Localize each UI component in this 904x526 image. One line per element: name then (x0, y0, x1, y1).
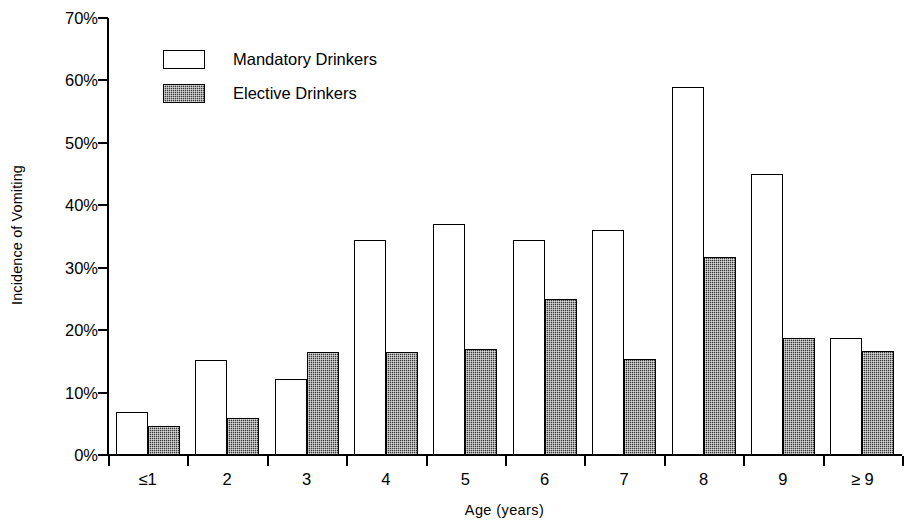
bar-elective (704, 257, 736, 455)
x-axis-tick-mark (823, 456, 825, 466)
x-axis-tick-label: ≥ 9 (822, 470, 902, 489)
x-axis-tick-mark (267, 456, 269, 466)
x-axis-tick-label: 2 (187, 470, 267, 489)
y-axis-tick-mark (98, 204, 108, 206)
x-axis-tick-label: 3 (267, 470, 347, 489)
x-axis-tick-mark (108, 456, 110, 466)
legend-label-elective: Elective Drinkers (233, 84, 357, 103)
y-axis-tick-mark (98, 267, 108, 269)
legend-swatch-mandatory-icon (163, 50, 205, 69)
x-axis-tick-label: 7 (584, 470, 664, 489)
bar-mandatory (751, 174, 783, 455)
y-axis-tick-mark (98, 79, 108, 81)
x-axis-tick-mark (664, 456, 666, 466)
bar-elective (465, 349, 497, 455)
y-axis-tick-mark (98, 17, 108, 19)
bar-elective (545, 299, 577, 455)
x-axis-tick-label: 4 (346, 470, 426, 489)
bar-elective (148, 426, 180, 455)
bar-mandatory (830, 338, 862, 455)
y-axis-tick-mark (98, 392, 108, 394)
x-axis-tick-label: 9 (743, 470, 823, 489)
x-axis-tick-label: ≤1 (108, 470, 188, 489)
legend-label-mandatory: Mandatory Drinkers (233, 50, 377, 69)
legend-swatch-elective-icon (163, 84, 205, 103)
bar-mandatory (116, 412, 148, 455)
y-axis-tick-mark (98, 142, 108, 144)
bar-mandatory (275, 379, 307, 455)
legend-item-mandatory: Mandatory Drinkers (163, 42, 377, 76)
legend-item-elective: Elective Drinkers (163, 76, 377, 110)
bar-elective (227, 418, 259, 455)
y-axis-tick-mark (98, 454, 108, 456)
x-axis-tick-label: 8 (664, 470, 744, 489)
y-axis-tick-mark (98, 329, 108, 331)
bar-mandatory (672, 87, 704, 455)
x-axis-tick-mark (426, 456, 428, 466)
bar-elective (624, 359, 656, 455)
chart-legend: Mandatory Drinkers Elective Drinkers (163, 42, 377, 110)
bar-mandatory (354, 240, 386, 455)
x-axis-tick-mark (346, 456, 348, 466)
x-axis-tick-label: 6 (505, 470, 585, 489)
x-axis-tick-mark (505, 456, 507, 466)
plot-area (0, 0, 904, 526)
x-axis-tick-label: 5 (425, 470, 505, 489)
bar-mandatory (195, 360, 227, 455)
bar-mandatory (433, 224, 465, 455)
bar-elective (386, 352, 418, 455)
x-axis-tick-mark (584, 456, 586, 466)
bar-mandatory (592, 230, 624, 455)
bar-mandatory (513, 240, 545, 455)
x-axis-tick-mark (187, 456, 189, 466)
bar-elective (307, 352, 339, 455)
x-axis-tick-mark (743, 456, 745, 466)
bar-elective (862, 351, 894, 455)
bar-elective (783, 338, 815, 455)
bar-chart-figure: Incidence of Vomiting 0%10%20%30%40%50%6… (0, 0, 904, 526)
x-axis-title: Age (years) (107, 502, 902, 518)
